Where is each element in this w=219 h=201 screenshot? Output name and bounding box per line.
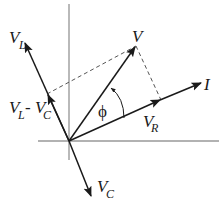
label-vl-minus-vc-minus: - xyxy=(25,98,31,117)
label-vc-sub: C xyxy=(106,187,115,201)
phasor-diagram: V I V L V C V R V L - V C ϕ xyxy=(0,0,219,201)
dashed-line-v-to-vr xyxy=(136,46,161,100)
phi-angle-arc xyxy=(111,88,124,118)
label-phi: ϕ xyxy=(98,102,107,121)
vector-vc xyxy=(69,141,91,196)
label-vr-sub: R xyxy=(150,121,159,135)
dashed-line-vlc-to-v xyxy=(47,46,136,94)
label-vl-sub: L xyxy=(18,38,26,52)
label-vl-minus-vc-sub2: C xyxy=(43,108,52,122)
vector-i xyxy=(160,83,201,100)
vector-vl-minus-vc xyxy=(48,95,69,141)
label-vl-minus-vc-sub1: L xyxy=(17,108,25,122)
label-v: V xyxy=(132,27,145,46)
label-i: I xyxy=(203,75,211,94)
